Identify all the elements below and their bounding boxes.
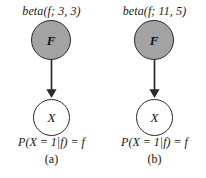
node-x-a: X <box>33 99 70 136</box>
conditional-probability-equation-b: P(X = 1|f) = f <box>121 135 188 149</box>
node-x-label-a: X <box>48 111 56 124</box>
graph-area-a: F X <box>0 19 103 137</box>
node-x-b: X <box>136 99 173 136</box>
node-f-b: F <box>134 20 174 60</box>
panel-caption-a: (a) <box>45 152 58 166</box>
graph-area-b: F X <box>103 19 206 137</box>
conditional-probability-equation-a: P(X = 1|f) = f <box>18 135 85 149</box>
node-f-a: F <box>31 20 71 60</box>
prior-distribution-label-a: beta(f; 3, 3) <box>22 4 80 18</box>
node-f-label-a: F <box>47 34 56 47</box>
panel-b: beta(f; 11, 5) F X P(X = 1|f) = f (b) <box>103 0 206 178</box>
bayesian-network-figure: beta(f; 3, 3) F X P(X = 1|f) = f (a) bet… <box>0 0 206 178</box>
panel-caption-b: (b) <box>148 152 162 166</box>
prior-distribution-label-b: beta(f; 11, 5) <box>123 4 187 18</box>
panel-a: beta(f; 3, 3) F X P(X = 1|f) = f (a) <box>0 0 103 178</box>
node-f-label-b: F <box>150 34 159 47</box>
node-x-label-b: X <box>151 111 159 124</box>
